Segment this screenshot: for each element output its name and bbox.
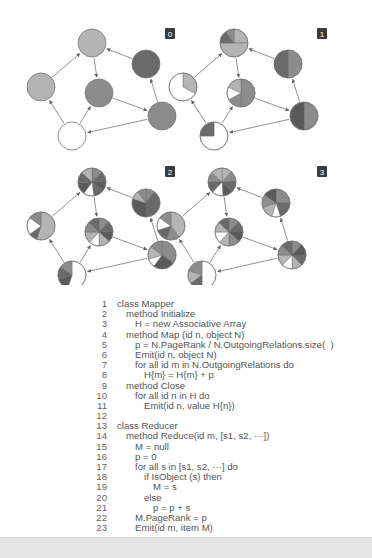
code-text: Emit(id m, item M) — [135, 523, 213, 533]
line-number: 23 — [93, 523, 107, 533]
edge-arrow — [182, 192, 210, 216]
panel-label-badge: 0 — [165, 28, 175, 39]
edge-arrow — [50, 240, 64, 263]
node-F — [58, 261, 86, 285]
node-C — [169, 73, 197, 101]
edge-arrow — [218, 258, 278, 271]
edge-arrow — [236, 58, 239, 77]
edge-arrow — [80, 246, 91, 263]
edge-arrow — [230, 119, 290, 132]
edge-arrow — [222, 107, 233, 124]
edge-arrow — [107, 49, 132, 59]
edge-arrow — [180, 240, 194, 263]
code-text: H{m} = H{m} + p — [144, 370, 214, 380]
node-B — [132, 189, 160, 217]
edge-arrow — [113, 98, 147, 110]
edge-arrow — [151, 218, 158, 240]
node-F — [58, 122, 86, 150]
node-E — [278, 241, 306, 269]
node-A — [78, 29, 106, 57]
edge-arrow — [249, 49, 274, 59]
edge-arrow — [113, 237, 147, 249]
svg-text:1: 1 — [320, 30, 325, 39]
node-C — [157, 212, 185, 240]
node-E — [290, 102, 318, 130]
panel-label-badge: 2 — [165, 166, 175, 177]
node-F — [188, 261, 216, 285]
edge-arrow — [52, 53, 80, 77]
node-C — [27, 212, 55, 240]
panel-label-badge: 1 — [317, 28, 327, 39]
node-B — [132, 50, 160, 78]
edge-arrow — [255, 98, 289, 110]
node-A — [220, 29, 248, 57]
edge-arrow — [52, 192, 80, 216]
edge-arrow — [151, 79, 158, 101]
edge-arrow — [107, 188, 132, 198]
edge-arrow — [80, 107, 91, 124]
node-D — [215, 218, 243, 246]
line-number: 8 — [93, 370, 107, 380]
edge-arrow — [237, 188, 262, 198]
node-F — [200, 122, 228, 150]
svg-text:3: 3 — [320, 168, 325, 177]
pagerank-iteration-diagram: 0123 — [0, 0, 372, 285]
edge-arrow — [94, 197, 97, 216]
edge-arrow — [281, 218, 288, 240]
node-A — [208, 168, 236, 196]
node-B — [262, 189, 290, 217]
node-A — [78, 168, 106, 196]
edge-arrow — [94, 58, 97, 77]
edge-arrow — [50, 101, 64, 124]
footer-bar — [0, 537, 372, 558]
edge-arrow — [194, 53, 222, 77]
edge-arrow — [210, 246, 221, 263]
code-text: Emit(id n, value H{n}) — [144, 401, 235, 411]
svg-text:2: 2 — [168, 168, 173, 177]
edge-arrow — [88, 119, 148, 132]
panel-0: 0 — [27, 28, 176, 150]
panel-label-badge: 3 — [317, 166, 327, 177]
edge-arrow — [224, 197, 227, 216]
panel-3: 3 — [157, 166, 327, 285]
edge-arrow — [293, 79, 300, 101]
node-D — [85, 79, 113, 107]
node-D — [85, 218, 113, 246]
node-E — [148, 241, 176, 269]
panel-1: 1 — [169, 28, 327, 150]
node-D — [227, 79, 255, 107]
node-E — [148, 102, 176, 130]
svg-text:0: 0 — [168, 30, 173, 39]
node-B — [274, 50, 302, 78]
edge-arrow — [88, 258, 148, 271]
node-C — [27, 73, 55, 101]
edge-arrow — [192, 101, 206, 124]
edge-arrow — [243, 237, 277, 249]
panel-2: 2 — [27, 166, 176, 285]
